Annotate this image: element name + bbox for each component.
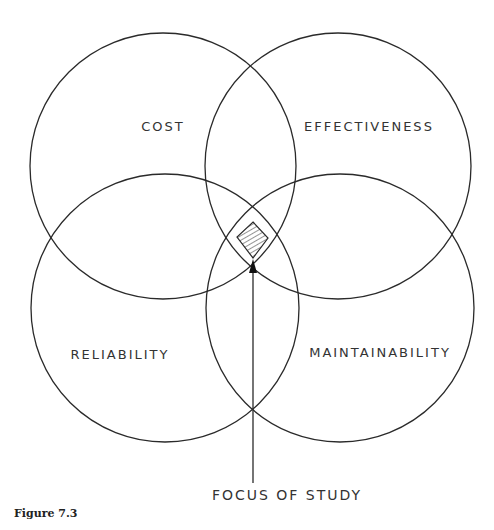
label-reliability: RELIABILITY bbox=[71, 347, 170, 362]
focus-of-study-label: FOCUS OF STUDY bbox=[212, 487, 362, 503]
venn-diagram: COST EFFECTIVENESS RELIABILITY MAINTAINA… bbox=[0, 0, 494, 530]
circle-cost bbox=[30, 33, 296, 299]
circle-effectiveness bbox=[205, 33, 471, 299]
circle-maintainability bbox=[206, 174, 474, 442]
figure-caption: Figure 7.3 bbox=[14, 507, 77, 520]
label-effectiveness: EFFECTIVENESS bbox=[304, 119, 434, 134]
label-cost: COST bbox=[141, 119, 185, 134]
label-maintainability: MAINTAINABILITY bbox=[309, 345, 451, 360]
circle-reliability bbox=[31, 174, 299, 442]
